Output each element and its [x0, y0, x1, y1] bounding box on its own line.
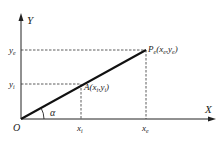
x-axis-arrow-icon: [208, 117, 216, 122]
angle-arc: [41, 108, 44, 119]
y-axis-arrow-icon: [19, 13, 24, 21]
x-i-label: xi: [76, 123, 83, 134]
y-axis-label: Y: [27, 14, 35, 26]
x-axis-label: X: [204, 103, 213, 115]
origin-label: O: [13, 122, 20, 133]
point-pe-label: Pe(xe,ye): [147, 44, 178, 55]
y-axis: [19, 13, 24, 119]
x-e-label: xe: [141, 123, 149, 134]
point-a-label: A(xi,yi): [83, 82, 109, 93]
y-e-label: ye: [8, 45, 16, 56]
y-i-label: yi: [8, 79, 15, 90]
angle-label: α: [50, 107, 56, 118]
line-interpolation-diagram: Y X O α ye yi xi xe A(xi,yi) Pe(xe,ye): [0, 0, 222, 143]
